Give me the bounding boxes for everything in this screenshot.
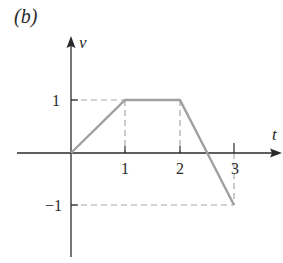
x-axis-label: t (272, 125, 278, 144)
x-tick-label-2: 2 (176, 160, 184, 177)
axes (17, 44, 274, 257)
y-axis-label: v (79, 33, 87, 52)
y-tick-label-1: 1 (52, 92, 60, 109)
x-tick-label-1: 1 (121, 160, 129, 177)
y-tick-label-minus1: −1 (45, 197, 62, 214)
waveform-diagram: (b) v t 1 2 3 1 −1 (0, 0, 283, 263)
panel-label: (b) (14, 5, 38, 28)
x-tick-label-3: 3 (231, 160, 239, 177)
